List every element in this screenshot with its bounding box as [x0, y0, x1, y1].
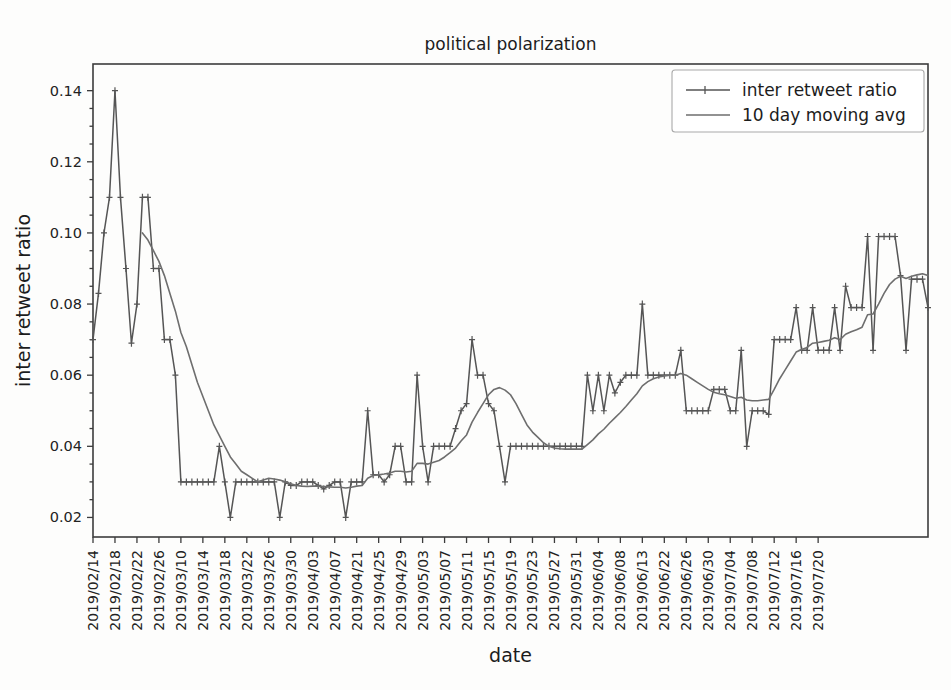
y-tick-label: 0.08 — [50, 296, 82, 312]
x-tick-label: 2019/05/23 — [524, 550, 540, 631]
x-tick-label: 2019/06/26 — [678, 550, 694, 631]
x-tick-label: 2019/06/22 — [656, 550, 672, 631]
x-tick-label: 2019/04/25 — [371, 550, 387, 631]
x-tick-label: 2019/03/26 — [261, 550, 277, 631]
x-axis-label: date — [489, 644, 532, 666]
plot-frame — [93, 64, 928, 537]
legend-label-inter-retweet-ratio: inter retweet ratio — [742, 80, 897, 100]
y-tick-label: 0.12 — [50, 154, 82, 170]
y-tick-label: 0.06 — [50, 367, 82, 383]
series-inter-retweet-ratio — [93, 91, 928, 518]
y-tick-label: 0.14 — [50, 83, 82, 99]
x-tick-label: 2019/05/27 — [546, 550, 562, 631]
x-tick-label: 2019/03/10 — [173, 550, 189, 631]
y-tick-label: 0.10 — [50, 225, 82, 241]
x-tick-label: 2019/05/31 — [568, 550, 584, 631]
x-tick-label: 2019/07/12 — [766, 550, 782, 631]
y-axis-label: inter retweet ratio — [12, 214, 34, 387]
y-tick-label: 0.02 — [50, 509, 82, 525]
legend-label-10-day-moving-avg: 10 day moving avg — [742, 105, 906, 125]
x-tick-label: 2019/03/30 — [283, 550, 299, 631]
x-tick-label: 2019/04/29 — [393, 550, 409, 631]
x-tick-label: 2019/06/30 — [700, 550, 716, 631]
x-tick-label: 2019/07/16 — [788, 550, 804, 631]
x-tick-label: 2019/02/26 — [151, 550, 167, 631]
x-tick-label: 2019/06/04 — [590, 550, 606, 631]
x-tick-label: 2019/07/04 — [722, 550, 738, 631]
x-tick-label: 2019/03/14 — [195, 550, 211, 631]
x-tick-label: 2019/06/13 — [634, 550, 650, 631]
x-tick-label: 2019/05/19 — [503, 550, 519, 631]
x-tick-label: 2019/03/22 — [239, 550, 255, 631]
x-tick-label: 2019/03/18 — [217, 550, 233, 631]
chart-figure: 0.020.040.060.080.100.120.142019/02/1420… — [0, 0, 951, 690]
series-markers — [90, 87, 931, 521]
chart-title: political polarization — [425, 34, 597, 54]
x-tick-label: 2019/07/08 — [744, 550, 760, 631]
x-tick-label: 2019/02/22 — [129, 550, 145, 631]
x-tick-label: 2019/02/18 — [107, 550, 123, 631]
x-tick-label: 2019/05/03 — [415, 550, 431, 631]
y-tick-label: 0.04 — [50, 438, 82, 454]
x-tick-label: 2019/04/21 — [349, 550, 365, 631]
political-polarization-chart: 0.020.040.060.080.100.120.142019/02/1420… — [0, 0, 951, 690]
x-tick-label: 2019/06/08 — [612, 550, 628, 631]
x-tick-label: 2019/05/07 — [437, 550, 453, 631]
series-10-day-moving-avg — [142, 233, 928, 488]
x-tick-label: 2019/05/11 — [459, 550, 475, 631]
x-tick-label: 2019/07/20 — [810, 550, 826, 631]
x-tick-label: 2019/04/07 — [327, 550, 343, 631]
x-tick-label: 2019/02/14 — [85, 550, 101, 631]
x-tick-label: 2019/04/03 — [305, 550, 321, 631]
x-tick-label: 2019/05/15 — [481, 550, 497, 631]
